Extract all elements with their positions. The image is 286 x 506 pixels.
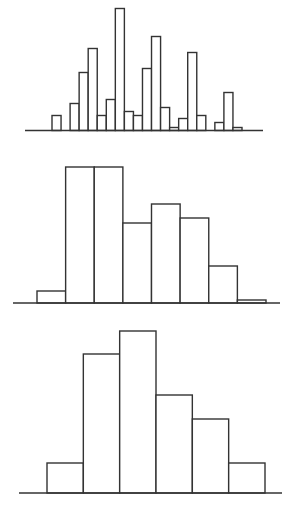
histogram-bar — [156, 395, 192, 493]
histogram-bar — [229, 463, 265, 493]
histogram-bar — [180, 218, 209, 303]
histogram-bar — [152, 37, 161, 131]
histogram-bar — [52, 116, 61, 131]
histogram-bar — [88, 49, 97, 131]
histogram-top — [25, 9, 263, 131]
histogram-bar — [94, 167, 123, 303]
histogram-bar — [133, 116, 142, 131]
histogram-bar — [209, 266, 238, 303]
histogram-bar — [179, 119, 188, 131]
histogram-bar — [97, 116, 106, 131]
histogram-bottom — [19, 331, 282, 493]
histogram-bar — [161, 108, 170, 131]
histogram-bar — [224, 93, 233, 131]
histogram-bar — [188, 53, 197, 131]
histogram-bar — [124, 112, 133, 131]
histogram-figure — [0, 0, 286, 506]
histogram-bar — [120, 331, 156, 493]
histogram-bar — [215, 123, 224, 131]
histogram-bar — [142, 69, 151, 131]
histogram-bar — [192, 419, 228, 493]
histogram-middle — [13, 167, 280, 303]
histogram-bar — [106, 100, 115, 131]
histogram-bar — [66, 167, 95, 303]
histogram-bar — [37, 291, 66, 303]
histogram-bar — [79, 73, 88, 131]
histogram-bar — [197, 116, 206, 131]
histogram-bar — [152, 204, 181, 303]
histogram-bar — [115, 9, 124, 131]
histogram-bar — [123, 223, 152, 303]
histogram-bar — [83, 354, 119, 493]
histogram-bar — [47, 463, 83, 493]
histogram-bar — [70, 104, 79, 131]
